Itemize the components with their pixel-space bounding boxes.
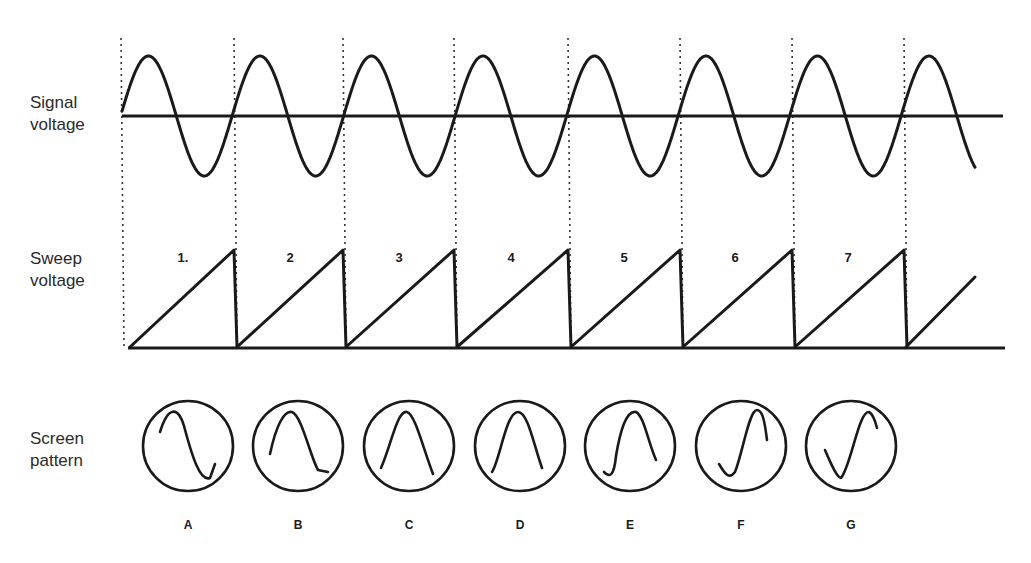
crt-screen [806, 401, 896, 491]
sweep-number: 6 [731, 250, 738, 265]
crt-screen [475, 401, 565, 491]
sweep-number: 4 [507, 250, 514, 265]
screen-letter: A [184, 518, 193, 532]
trace [825, 412, 877, 478]
sweep-number: 5 [620, 250, 627, 265]
screen-pattern-d [475, 401, 565, 491]
oscilloscope-sync-diagram [0, 0, 1031, 563]
sweep-number: 2 [286, 250, 293, 265]
trace [381, 412, 433, 474]
trace [160, 412, 215, 479]
screen-pattern-b [253, 401, 343, 491]
sweep-number: 3 [395, 250, 402, 265]
sweep-number: 1. [178, 250, 189, 265]
screen-pattern-g [806, 401, 896, 491]
trace [719, 410, 767, 476]
screen-letter: F [737, 518, 744, 532]
screen-pattern-e [585, 401, 675, 491]
trace [492, 412, 542, 472]
screen-letter: E [626, 518, 634, 532]
trace [270, 412, 328, 472]
crt-screen [253, 401, 343, 491]
crt-screen [696, 401, 786, 491]
screen-patterns [143, 401, 896, 491]
trace [604, 412, 656, 475]
sweep-number: 7 [844, 250, 851, 265]
screen-pattern-c [364, 401, 454, 491]
sync-line [121, 38, 124, 350]
screen-letter: B [294, 518, 303, 532]
screen-pattern-f [696, 401, 786, 491]
screen-letter: C [405, 518, 414, 532]
crt-screen [143, 401, 233, 491]
screen-pattern-a [143, 401, 233, 491]
screen-letter: G [846, 518, 855, 532]
sync-lines [121, 38, 907, 350]
screen-letter: D [516, 518, 525, 532]
